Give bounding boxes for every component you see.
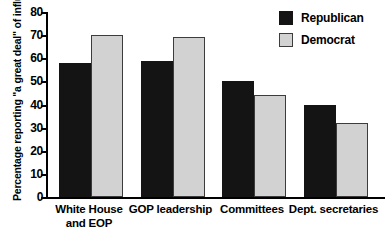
legend-label-democrat: Democrat	[301, 33, 355, 47]
bar-democrat-2	[254, 95, 286, 197]
bar-democrat-1	[173, 37, 205, 197]
y-tick-label: 80	[30, 5, 43, 19]
bar-democrat-0	[91, 35, 123, 197]
dark-square-swatch-icon	[279, 11, 293, 25]
bar-republican-1	[141, 61, 173, 197]
y-tick-label: 30	[30, 121, 43, 135]
y-tick-label: 60	[30, 51, 43, 65]
bar-democrat-3	[336, 123, 368, 197]
y-axis-title: Percentage reporting "a great deal" of i…	[10, 1, 24, 201]
x-category-label-3: Dept. secretaries	[274, 203, 389, 217]
y-tick-label: 10	[30, 167, 43, 181]
light-square-swatch-icon	[279, 33, 293, 47]
y-tick-label: 0	[37, 190, 43, 204]
y-tick-label: 20	[30, 144, 43, 158]
legend-label-republican: Republican	[301, 11, 364, 25]
bar-republican-3	[304, 105, 336, 198]
bar-republican-0	[59, 63, 91, 197]
legend: Republican Democrat	[279, 9, 364, 53]
y-tick-label: 40	[30, 98, 43, 112]
legend-item-democrat: Democrat	[279, 31, 364, 48]
clipped-bottom-caption	[100, 243, 330, 248]
bar-republican-2	[222, 81, 254, 197]
legend-item-republican: Republican	[279, 9, 364, 26]
y-tick-label: 70	[30, 28, 43, 42]
x-category-label-line2: and EOP	[29, 217, 149, 231]
y-tick-label: 50	[30, 74, 43, 88]
x-category-label-line1: Dept. secretaries	[274, 203, 389, 217]
